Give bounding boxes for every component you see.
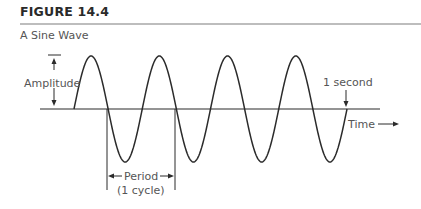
one-second-label: 1 second <box>323 76 373 89</box>
time-label: Time <box>347 118 375 131</box>
one-second-arrowhead <box>344 101 349 107</box>
period-arrowhead-right <box>168 174 174 179</box>
sine-wave-diagram: Amplitude 1 second Time Period (1 cycle) <box>0 0 421 209</box>
amplitude-label: Amplitude <box>24 77 81 90</box>
period-cycle-label: (1 cycle) <box>117 184 165 197</box>
amplitude-arrowhead-up <box>52 58 57 64</box>
time-arrowhead <box>393 122 399 127</box>
period-label: Period <box>124 170 158 183</box>
amplitude-arrowhead-down <box>52 100 57 106</box>
